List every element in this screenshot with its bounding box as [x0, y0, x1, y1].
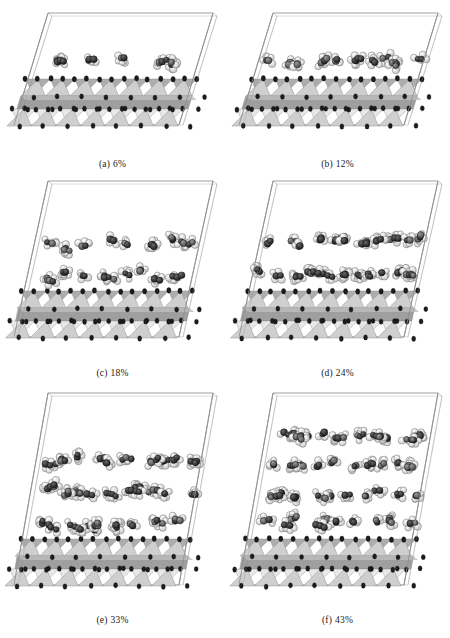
molecule-e-0: [116, 452, 134, 466]
molecule-e-29: [168, 512, 186, 524]
panel-grid: (a)6% (b)12% (c)18%: [0, 7, 450, 638]
panel-d-caption: (d)24%: [225, 368, 450, 378]
molecule-f-24: [371, 484, 388, 498]
molecule-c-1: [58, 265, 73, 280]
molecule-layer-a: [53, 52, 181, 73]
panel-f-stage: [225, 387, 450, 619]
panel-c-stage: [0, 175, 225, 371]
panel-a-stage: [0, 7, 225, 159]
molecule-d-19: [370, 232, 388, 249]
panel-a-coverage: 6%: [113, 159, 126, 169]
tetrahedral-sheet-lower-b: [232, 109, 408, 126]
panel-a-index: (a): [99, 159, 110, 169]
molecule-c-7: [59, 241, 73, 259]
figure-container: (a)6% (b)12% (c)18%: [0, 7, 450, 638]
molecule-d-11: [401, 233, 415, 248]
panel-c-artwork: [0, 175, 225, 371]
molecule-c-4: [118, 236, 130, 250]
molecule-e-28: [170, 453, 183, 468]
molecule-layer-e: [36, 448, 204, 537]
molecule-c-6: [42, 236, 60, 249]
molecule-d-4: [313, 232, 328, 245]
molecule-f-25: [327, 455, 341, 466]
tetrahedral-sheet-upper-e: [15, 539, 191, 556]
molecule-d-5: [375, 268, 389, 280]
panel-b-coverage: 12%: [336, 159, 354, 169]
panel-a: (a)6%: [0, 7, 225, 175]
molecule-c-3: [40, 271, 60, 288]
molecule-c-12: [134, 263, 149, 276]
panel-e-artwork: [0, 387, 225, 619]
running-head: [0, 0, 450, 7]
clay-substrate-d: [230, 288, 427, 342]
molecule-f-15: [403, 516, 422, 531]
panel-f-artwork: [225, 387, 450, 619]
molecule-f-22: [313, 489, 331, 506]
panel-d-svg: [225, 175, 450, 371]
tetrahedral-sheet-upper-a: [21, 79, 197, 96]
molecule-e-7: [149, 515, 160, 528]
molecule-layer-d: [250, 230, 427, 284]
molecule-b-4: [347, 52, 366, 69]
panel-e-svg: [0, 387, 225, 619]
panel-f-caption: (f)43%: [225, 615, 450, 625]
molecule-f-1: [382, 512, 398, 530]
molecule-f-19: [256, 513, 277, 527]
panel-f-index: (f): [322, 615, 332, 625]
panel-d-coverage: 24%: [336, 368, 354, 378]
molecule-d-14: [361, 267, 377, 281]
molecule-layer-f: [256, 426, 427, 534]
molecule-d-1: [262, 235, 274, 249]
molecule-d-18: [400, 266, 418, 282]
molecule-f-27: [362, 489, 373, 504]
panel-f-svg: [225, 387, 450, 619]
panel-a-caption: (a)6%: [0, 159, 225, 169]
panel-e-index: (e): [96, 615, 107, 625]
molecule-e-5: [45, 516, 61, 537]
panel-f-coverage: 43%: [335, 615, 353, 625]
molecule-c-14: [106, 232, 119, 248]
clay-substrate-c: [5, 288, 201, 342]
panel-d-index: (d): [321, 368, 333, 378]
panel-b-caption: (b)12%: [225, 159, 450, 169]
panel-d-stage: [225, 175, 450, 371]
molecule-f-23: [400, 457, 418, 474]
tetrahedral-sheet-lower-c: [5, 321, 181, 338]
molecule-e-16: [157, 488, 172, 501]
panel-c-index: (c): [96, 368, 107, 378]
molecule-f-38: [286, 457, 301, 473]
molecule-f-17: [360, 456, 376, 472]
molecule-f-10: [266, 457, 280, 471]
panel-b-svg: [225, 7, 450, 159]
molecule-e-1: [36, 516, 46, 528]
molecule-c-0: [75, 238, 93, 250]
panel-e-coverage: 33%: [111, 615, 129, 625]
molecule-f-36: [315, 429, 328, 441]
molecule-b-9: [260, 53, 276, 68]
molecule-f-28: [373, 514, 384, 525]
panel-d: (d)24%: [225, 175, 450, 387]
molecule-layer-c: [40, 231, 199, 289]
tetrahedral-sheet-upper-c: [17, 291, 193, 308]
tetrahedral-sheet-lower-e: [5, 569, 181, 586]
molecule-a-0: [115, 52, 129, 67]
panel-b-index: (b): [321, 159, 333, 169]
molecule-d-16: [289, 270, 306, 285]
molecule-f-7: [338, 491, 354, 502]
molecule-c-9: [77, 269, 92, 282]
molecule-a-3: [53, 53, 68, 68]
molecule-f-29: [366, 429, 387, 444]
molecule-e-26: [103, 454, 116, 470]
tetrahedral-sheet-upper-b: [246, 79, 422, 96]
panel-a-artwork: [0, 7, 225, 159]
molecule-f-13: [412, 490, 424, 502]
clay-substrate-b: [232, 75, 431, 129]
molecule-f-30: [348, 461, 362, 473]
molecule-d-10: [336, 267, 353, 283]
panel-e: (e)33%: [0, 387, 225, 638]
panel-d-artwork: [225, 175, 450, 371]
molecule-e-13: [56, 453, 72, 466]
clay-substrate-f: [230, 536, 425, 590]
molecule-f-31: [391, 487, 407, 502]
molecule-e-25: [108, 518, 125, 536]
